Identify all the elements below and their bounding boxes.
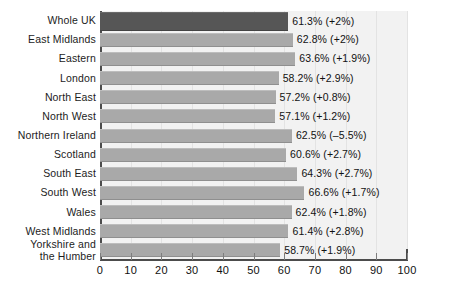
bar-value-label: 58.2% (+2.9%) (283, 73, 354, 84)
x-tick-label: 10 (124, 264, 137, 277)
category-label: Scotland (0, 149, 96, 160)
category-label: South East (0, 168, 96, 179)
category-label: South West (0, 187, 96, 198)
bar-value-label: 58.7% (+1.9%) (284, 245, 355, 256)
bar (100, 71, 279, 85)
category-label: Northern Ireland (0, 130, 96, 141)
bar-value-label: 57.1% (+1.2%) (279, 111, 350, 122)
bar-value-label: 57.2% (+0.8%) (280, 92, 351, 103)
category-label: North West (0, 111, 96, 122)
category-label: Eastern (0, 53, 96, 64)
x-tick-mark (407, 253, 408, 260)
x-tick-label: 60 (278, 264, 291, 277)
x-tick-label: 70 (309, 264, 322, 277)
bar (100, 52, 295, 66)
bar (100, 224, 288, 238)
x-tick-label: 50 (247, 264, 260, 277)
category-label: North East (0, 92, 96, 103)
category-label-line2: the Humber (0, 251, 96, 263)
gridline (376, 11, 377, 260)
x-tick-label: 80 (339, 264, 352, 277)
x-tick-mark (315, 253, 316, 260)
x-tick-label: 90 (370, 264, 383, 277)
bar (100, 148, 286, 162)
x-tick-mark (131, 253, 132, 260)
bar-value-label: 60.6% (+2.7%) (290, 149, 361, 160)
x-tick-label: 0 (97, 264, 103, 277)
bar (100, 129, 292, 143)
category-label: Yorkshire andthe Humber (0, 239, 96, 262)
category-label: East Midlands (0, 34, 96, 45)
x-tick-mark (192, 253, 193, 260)
bar-chart: Whole UK61.3% (+2%)East Midlands62.8% (+… (0, 0, 452, 298)
bar (100, 90, 276, 104)
x-tick-mark (254, 253, 255, 260)
category-label: Wales (0, 207, 96, 218)
x-tick-label: 20 (155, 264, 168, 277)
bar-value-label: 62.8% (+2%) (297, 34, 359, 45)
x-tick-label: 30 (186, 264, 199, 277)
x-tick-mark (223, 253, 224, 260)
bar-value-label: 62.4% (+1.8%) (296, 207, 367, 218)
x-tick-mark (100, 253, 101, 260)
bar-value-label: 66.6% (+1.7%) (308, 187, 379, 198)
bar-value-label: 61.4% (+2.8%) (292, 226, 363, 237)
bar (100, 205, 292, 219)
bar (100, 167, 297, 181)
x-tick-label: 100 (398, 264, 417, 277)
bar-value-label: 62.5% (–5.5%) (296, 130, 367, 141)
x-axis-tick-labels: 0102030405060708090100 (0, 264, 452, 282)
bar-value-label: 64.3% (+2.7%) (301, 168, 372, 179)
x-tick-mark (161, 253, 162, 260)
x-tick-mark (284, 253, 285, 260)
gridline (407, 11, 408, 260)
category-label: West Midlands (0, 226, 96, 237)
x-tick-mark (376, 253, 377, 260)
bar-value-label: 63.6% (+1.9%) (299, 53, 370, 64)
x-tick-label: 40 (216, 264, 229, 277)
chart-row: Yorkshire andthe Humber58.7% (+1.9%) (0, 0, 452, 17)
category-label: London (0, 73, 96, 84)
bar (100, 33, 293, 47)
bar-value-label: 61.3% (+2%) (292, 16, 354, 27)
bar (100, 186, 304, 200)
bar (100, 109, 275, 123)
x-tick-mark (346, 253, 347, 260)
